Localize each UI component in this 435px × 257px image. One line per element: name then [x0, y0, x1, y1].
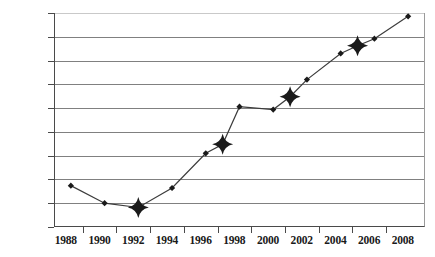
gridline-80000: [55, 37, 424, 38]
gridline-70000: [55, 84, 424, 85]
gridline-55000: [55, 156, 424, 157]
ytick-mark-55000: [48, 156, 54, 157]
ytick-mark-40000: [48, 227, 54, 228]
gridline-85000: [55, 13, 424, 14]
ytick-mark-65000: [48, 108, 54, 109]
xtick-mark-1: [83, 227, 84, 233]
xtick-mark-4: [184, 227, 185, 233]
ytick-mark-75000: [48, 61, 54, 62]
xtick-mark-3: [150, 227, 151, 233]
ytick-mark-70000: [48, 84, 54, 85]
gridline-75000: [55, 61, 424, 62]
ytick-mark-60000: [48, 132, 54, 133]
xtick-mark-10: [386, 227, 387, 233]
ytick-mark-80000: [48, 37, 54, 38]
gridline-65000: [55, 108, 424, 109]
line-chart: 85,000 80,000 75,000 70,000 65,000 60,00…: [0, 0, 435, 257]
gridline-60000: [55, 132, 424, 133]
xtick-mark-8: [319, 227, 320, 233]
plot-area: [54, 13, 425, 227]
gridline-50000: [55, 179, 424, 180]
xtick-mark-2: [116, 227, 117, 233]
gridline-45000: [55, 203, 424, 204]
xtick-label-2008: 2008: [378, 234, 428, 246]
ytick-mark-85000: [48, 13, 54, 14]
ytick-mark-50000: [48, 179, 54, 180]
xtick-mark-5: [218, 227, 219, 233]
xtick-mark-6: [251, 227, 252, 233]
xtick-mark-7: [285, 227, 286, 233]
xtick-mark-9: [352, 227, 353, 233]
ytick-mark-45000: [48, 203, 54, 204]
